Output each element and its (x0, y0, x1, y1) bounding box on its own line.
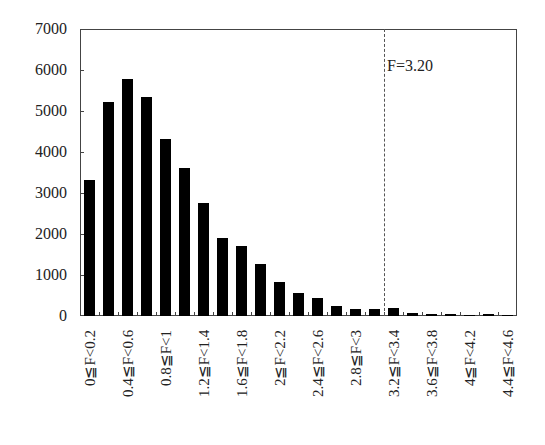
bar (464, 315, 475, 316)
x-tick-mark (460, 312, 461, 316)
y-tick-label: 4000 (35, 143, 67, 161)
y-tick-label: 7000 (35, 20, 67, 38)
x-tick-mark (213, 312, 214, 316)
y-tick-mark (80, 111, 84, 112)
x-tick-mark (403, 312, 404, 316)
threshold-label: F=3.20 (387, 57, 433, 75)
x-tick-label: 1.6≦F<1.8 (233, 330, 251, 397)
x-tick-label: 2≦F<2.2 (271, 330, 289, 386)
bar (445, 314, 456, 316)
x-tick-mark (270, 312, 271, 316)
x-tick-mark (232, 312, 233, 316)
x-tick-label: 0.4≦F<0.6 (119, 330, 137, 397)
x-tick-mark (346, 312, 347, 316)
bar (388, 308, 399, 316)
bar (483, 314, 494, 316)
x-tick-label: 3.2≦F<3.4 (385, 330, 403, 397)
x-tick-label: 0.8≦F<1 (157, 330, 175, 386)
bar (369, 309, 380, 316)
bar (122, 79, 133, 316)
x-tick-label: 4≦F<4.2 (461, 330, 479, 386)
y-tick-label: 0 (59, 307, 67, 325)
x-tick-mark (498, 312, 499, 316)
bar (179, 168, 190, 316)
bar (217, 238, 228, 316)
bar (293, 293, 304, 316)
y-tick-mark (80, 152, 84, 153)
x-tick-mark (156, 312, 157, 316)
x-tick-mark (175, 312, 176, 316)
y-tick-label: 2000 (35, 225, 67, 243)
bar (236, 246, 247, 316)
histogram-chart: 01000200030004000500060007000 0≦F<0.20.4… (0, 0, 545, 445)
x-tick-label: 2.4≦F<2.6 (309, 330, 327, 397)
threshold-line (384, 29, 385, 316)
x-tick-mark (365, 312, 366, 316)
x-tick-label: 3.6≦F<3.8 (423, 330, 441, 397)
bar (198, 203, 209, 316)
bar (255, 264, 266, 316)
x-tick-label: 0≦F<0.2 (81, 330, 99, 386)
bar (426, 314, 437, 316)
x-tick-label: 2.8≦F<3 (347, 330, 365, 386)
x-tick-mark (308, 312, 309, 316)
y-tick-label: 3000 (35, 184, 67, 202)
x-tick-mark (441, 312, 442, 316)
x-tick-mark (479, 312, 480, 316)
x-tick-mark (289, 312, 290, 316)
y-tick-label: 1000 (35, 266, 67, 284)
bar (274, 282, 285, 316)
bar (141, 97, 152, 316)
x-tick-mark (194, 312, 195, 316)
bar (502, 315, 513, 316)
bar (407, 313, 418, 316)
y-tick-label: 6000 (35, 61, 67, 79)
bar (350, 309, 361, 316)
x-tick-label: 4.4≦F<4.6 (499, 330, 517, 397)
y-tick-label: 5000 (35, 102, 67, 120)
x-tick-mark (251, 312, 252, 316)
bar (84, 180, 95, 316)
x-tick-mark (118, 312, 119, 316)
y-tick-mark (80, 70, 84, 71)
x-tick-mark (422, 312, 423, 316)
x-tick-mark (327, 312, 328, 316)
bar (312, 298, 323, 316)
x-tick-mark (137, 312, 138, 316)
bar (331, 306, 342, 316)
x-tick-label: 1.2≦F<1.4 (195, 330, 213, 397)
bar (103, 102, 114, 316)
bar (160, 139, 171, 316)
x-tick-mark (99, 312, 100, 316)
